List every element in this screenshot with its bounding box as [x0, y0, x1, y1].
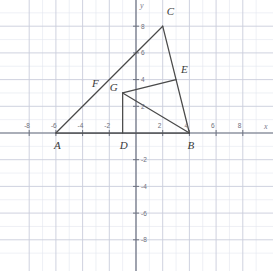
point-label-c: C	[167, 6, 174, 17]
point-label-a: A	[54, 140, 61, 151]
point-label-b: B	[187, 140, 194, 151]
segment-label-f: F	[92, 78, 99, 89]
point-label-g: G	[110, 82, 118, 93]
y-axis-name: y	[140, 2, 144, 10]
x-tick-label: -6	[51, 122, 57, 129]
y-tick-label: 8	[141, 23, 145, 30]
coordinate-plane-svg	[0, 0, 273, 271]
x-tick-label: -2	[104, 122, 110, 129]
x-tick-label: 8	[238, 122, 242, 129]
x-tick-label: 2	[158, 122, 162, 129]
axis-lines	[0, 0, 273, 271]
x-tick-label: -8	[24, 122, 30, 129]
x-tick-label: -4	[78, 122, 84, 129]
y-tick-label: -2	[141, 156, 147, 163]
y-tick-label: 6	[141, 49, 145, 56]
x-tick-label: 4	[184, 122, 188, 129]
y-tick-label: -4	[141, 183, 147, 190]
y-tick-label: -8	[141, 236, 147, 243]
point-label-e: E	[181, 64, 188, 75]
y-tick-label: -6	[141, 210, 147, 217]
y-tick-label: 2	[141, 103, 145, 110]
y-tick-label: 4	[141, 76, 145, 83]
point-label-d: D	[120, 140, 128, 151]
x-tick-label: 6	[211, 122, 215, 129]
x-axis-name: x	[264, 123, 268, 131]
geometry-figure: -8-6-4-224688642-2-4-6-8xyABCDEGF	[0, 0, 273, 271]
